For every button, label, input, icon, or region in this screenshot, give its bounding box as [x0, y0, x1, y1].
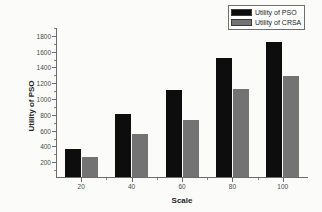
chart-legend: Utility of PSO Utility of CRSA — [228, 5, 305, 30]
bar-crsa-100 — [283, 76, 299, 177]
y-tick-major — [52, 99, 56, 100]
bar-pso-40 — [115, 114, 131, 177]
legend-item-crsa: Utility of CRSA — [231, 18, 301, 27]
y-tick-minor — [54, 123, 56, 124]
x-tick-label: 20 — [78, 183, 85, 190]
bar-pso-60 — [166, 90, 182, 177]
x-tick-label: 100 — [277, 183, 288, 190]
y-tick-major — [52, 36, 56, 37]
y-tick-minor — [54, 75, 56, 76]
bar-crsa-20 — [82, 157, 98, 177]
x-tick-minor — [106, 178, 107, 180]
y-tick-label: 1200 — [37, 80, 51, 87]
y-tick-minor — [54, 107, 56, 108]
y-tick-label: 1600 — [37, 48, 51, 55]
y-tick-minor — [54, 139, 56, 140]
y-axis-line — [56, 28, 57, 178]
x-tick-major — [81, 178, 82, 182]
bar-crsa-60 — [183, 120, 199, 177]
x-axis-title: Scale — [56, 196, 308, 205]
plot-area: 20040060080010001200140016001800 2040608… — [56, 28, 308, 178]
x-tick-major — [182, 178, 183, 182]
x-tick-minor — [258, 178, 259, 180]
bar-pso-100 — [266, 42, 282, 177]
legend-label-pso: Utility of PSO — [255, 9, 297, 17]
x-tick-major — [232, 178, 233, 182]
x-tick-label: 60 — [178, 183, 185, 190]
y-tick-major — [52, 83, 56, 84]
y-tick-major — [52, 146, 56, 147]
y-tick-major — [52, 67, 56, 68]
y-tick-major — [52, 162, 56, 163]
legend-swatch-pso — [231, 9, 252, 16]
y-tick-minor — [54, 60, 56, 61]
y-tick-label: 400 — [40, 143, 51, 150]
y-tick-minor — [54, 44, 56, 45]
x-tick-label: 80 — [229, 183, 236, 190]
y-tick-minor — [54, 28, 56, 29]
y-tick-minor — [54, 91, 56, 92]
y-tick-label: 800 — [40, 111, 51, 118]
y-tick-major — [52, 131, 56, 132]
legend-swatch-crsa — [231, 19, 252, 26]
y-tick-minor — [54, 170, 56, 171]
y-tick-label: 1800 — [37, 32, 51, 39]
y-tick-label: 200 — [40, 159, 51, 166]
y-axis-title: Utility of PSO — [27, 80, 36, 131]
x-tick-minor — [157, 178, 158, 180]
bar-pso-20 — [65, 149, 81, 177]
y-tick-label: 600 — [40, 127, 51, 134]
bar-chart-figure: Utility of PSO Utility of CRSA 200400600… — [0, 0, 322, 212]
legend-item-pso: Utility of PSO — [231, 8, 301, 17]
x-tick-minor — [207, 178, 208, 180]
y-tick-label: 1000 — [37, 96, 51, 103]
y-tick-major — [52, 52, 56, 53]
x-tick-major — [283, 178, 284, 182]
y-tick-label: 1400 — [37, 64, 51, 71]
bar-crsa-40 — [132, 134, 148, 177]
bar-crsa-80 — [233, 89, 249, 177]
bar-pso-80 — [216, 58, 232, 177]
x-tick-major — [132, 178, 133, 182]
y-tick-minor — [54, 154, 56, 155]
legend-label-crsa: Utility of CRSA — [255, 19, 301, 27]
y-tick-major — [52, 115, 56, 116]
x-tick-label: 40 — [128, 183, 135, 190]
